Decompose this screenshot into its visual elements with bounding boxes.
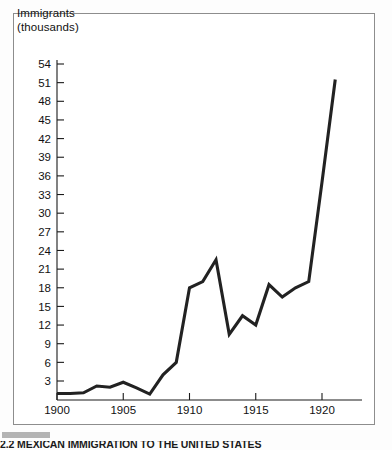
y-tick-label: 18 [38, 282, 51, 294]
x-tick-label: 1920 [309, 404, 335, 416]
x-axis-ticks: 19001905191019151920 [44, 393, 335, 416]
x-tick-label: 1905 [110, 404, 136, 416]
y-tick-label: 42 [38, 133, 51, 145]
line-chart-plot: 369121518212427303336394245485154 190019… [0, 0, 392, 450]
y-tick-label: 27 [38, 226, 51, 238]
y-tick-label: 48 [38, 95, 51, 107]
x-tick-label: 1900 [44, 404, 70, 416]
data-series-line [57, 80, 335, 395]
caption-marker [2, 432, 50, 438]
y-tick-label: 12 [38, 319, 51, 331]
y-tick-label: 30 [38, 207, 51, 219]
figure-container: Immigrants (thousands) 36912151821242730… [0, 0, 392, 450]
figure-caption-text: 2.2 MEXICAN IMMIGRATION TO THE UNITED ST… [0, 441, 261, 450]
y-tick-label: 54 [38, 58, 51, 70]
figure-caption-bar: 2.2 MEXICAN IMMIGRATION TO THE UNITED ST… [0, 441, 392, 450]
y-tick-label: 36 [38, 170, 51, 182]
y-tick-label: 6 [45, 357, 51, 369]
y-tick-label: 39 [38, 151, 51, 163]
y-tick-label: 21 [38, 263, 51, 275]
y-tick-label: 51 [38, 77, 51, 89]
y-tick-label: 9 [45, 338, 51, 350]
y-axis-ticks: 369121518212427303336394245485154 [38, 58, 64, 387]
y-tick-label: 45 [38, 114, 51, 126]
y-tick-label: 24 [38, 245, 51, 257]
y-tick-label: 3 [45, 375, 51, 387]
x-tick-label: 1915 [243, 404, 269, 416]
y-tick-label: 15 [38, 301, 51, 313]
y-tick-label: 33 [38, 189, 51, 201]
x-tick-label: 1910 [177, 404, 203, 416]
